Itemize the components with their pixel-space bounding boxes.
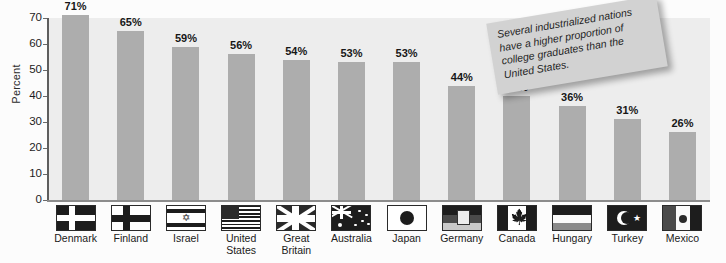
star [354, 224, 357, 227]
star-of-david: ✡ [181, 213, 191, 223]
category-label: Australia [324, 233, 379, 256]
flag-mexico-icon [662, 205, 702, 231]
stripe-red [553, 206, 591, 215]
bar-value-label: 36% [561, 91, 583, 103]
bar: 53% [338, 62, 365, 200]
flag-united-states-icon [221, 205, 261, 231]
bar-value-label: 56% [230, 39, 252, 51]
flag-denmark-icon [56, 205, 96, 231]
bar: 40% [503, 96, 530, 200]
flag-germany-icon [442, 205, 482, 231]
flag-australia-icon [331, 205, 371, 231]
stripe [222, 227, 260, 229]
stripe [222, 224, 260, 226]
bar-value-label: 71% [65, 0, 87, 12]
bar-value-label: 65% [120, 16, 142, 28]
maple-leaf: 🍁 [510, 209, 524, 225]
category-label: Turkey [600, 233, 655, 256]
y-axis-tick-label: 30 [18, 116, 42, 128]
flag-cell [434, 204, 489, 231]
y-axis-tick-mark [43, 70, 47, 71]
bar-left [498, 206, 508, 230]
cross-horizontal [112, 215, 150, 222]
bar-cell: 53% [324, 18, 379, 200]
chart-container: Percent 706050403020100 71%65%59%56%54%5… [0, 0, 726, 263]
flag-great-britain-icon [276, 205, 316, 231]
flag-cell [655, 204, 710, 231]
bar-value-label: 26% [671, 117, 693, 129]
star [365, 214, 368, 217]
flag-cell: 🍁 [489, 204, 544, 231]
cross-vertical [69, 206, 75, 230]
bar-value-label: 44% [451, 71, 473, 83]
y-axis-tick-mark [43, 200, 47, 201]
bar-cell: 44% [434, 18, 489, 200]
star: ★ [632, 214, 641, 223]
y-axis-tick-label: 40 [18, 90, 42, 102]
star [358, 210, 361, 213]
flag-finland-icon [111, 205, 151, 231]
flag-cell [48, 204, 103, 231]
y-axis-tick-label: 60 [18, 38, 42, 50]
flag-turkey-icon: ★ [607, 205, 647, 231]
category-label: Denmark [48, 233, 103, 256]
bar: 44% [448, 86, 475, 200]
commonwealth-star [338, 223, 342, 227]
y-axis-tick-mark [43, 174, 47, 175]
flag-cell [324, 204, 379, 231]
x-axis-baseline [47, 200, 710, 202]
category-label: Mexico [655, 233, 710, 256]
bar-value-label: 54% [285, 45, 307, 57]
bar-value-label: 53% [396, 47, 418, 59]
cut-off-title [250, 0, 510, 8]
y-axis-tick-label: 0 [18, 194, 42, 206]
flag-cell [103, 204, 158, 231]
y-axis-tick-mark [43, 18, 47, 19]
bar: 59% [172, 47, 199, 200]
star [361, 220, 364, 223]
category-label: Japan [379, 233, 434, 256]
category-label: Israel [158, 233, 213, 256]
star [367, 223, 370, 226]
bar-cell: 56% [214, 18, 269, 200]
y-axis-tick-label: 20 [18, 142, 42, 154]
bar: 56% [228, 54, 255, 200]
stripe-green [663, 206, 676, 230]
cross-vertical [292, 206, 299, 230]
bar: 71% [62, 15, 89, 200]
flag-japan-icon [387, 205, 427, 231]
flag-hungary-icon [552, 205, 592, 231]
bar: 31% [614, 119, 641, 200]
sun-disc [400, 211, 414, 225]
y-axis-tick-label: 10 [18, 168, 42, 180]
bar-value-label: 53% [340, 47, 362, 59]
bar: 65% [117, 31, 144, 200]
bar: 54% [283, 60, 310, 200]
flag-cell [545, 204, 600, 231]
flag-israel-icon: ✡ [166, 205, 206, 231]
bar-cell: 53% [379, 18, 434, 200]
flag-cell [379, 204, 434, 231]
y-axis-tick-label: 70 [18, 12, 42, 24]
y-axis-tick-label: 50 [18, 64, 42, 76]
stripe-red [690, 206, 702, 230]
y-axis-title: Percent [10, 44, 22, 124]
bar-cell: 65% [103, 18, 158, 200]
category-label: Great Britain [269, 233, 324, 256]
stripe-green [553, 223, 591, 231]
bar-value-label: 31% [616, 104, 638, 116]
union-cross-v [340, 206, 343, 219]
category-label-row: DenmarkFinlandIsraelUnited StatesGreat B… [48, 233, 710, 256]
flag-canada-icon: 🍁 [497, 205, 537, 231]
category-label: United States [214, 233, 269, 256]
category-label: Finland [103, 233, 158, 256]
category-label: Germany [434, 233, 489, 256]
category-label: Hungary [545, 233, 600, 256]
eagle-emblem [457, 210, 470, 225]
flag-cell: ★ [600, 204, 655, 231]
flag-cell [214, 204, 269, 231]
bar-cell: 59% [158, 18, 213, 200]
cross-vertical [123, 206, 130, 230]
bar-cell: 71% [48, 18, 103, 200]
y-axis-tick-mark [43, 44, 47, 45]
